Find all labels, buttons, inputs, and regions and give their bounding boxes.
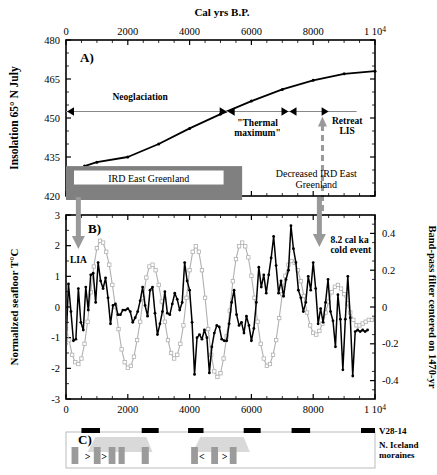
panel-b-y2-tick-label: 0.4: [382, 228, 396, 239]
seafloor-temperature-data-point: [94, 301, 97, 304]
insolation-data-point: [343, 72, 346, 75]
arrow-head: [67, 107, 74, 115]
panel-b-x-tick-label: 6000: [241, 404, 262, 415]
seafloor-temperature-data-point: [317, 322, 320, 325]
moraine-bar: [109, 447, 116, 464]
seafloor-temperature-data-point: [297, 289, 300, 292]
panel-a-y-tick-label: 435: [44, 152, 60, 163]
seafloor-temperature-data-point: [178, 309, 181, 312]
seafloor-temperature-data-point: [99, 280, 102, 283]
bandpass-data-point: [240, 241, 243, 244]
bandpass-data-point: [197, 250, 200, 253]
v28-14-bar: [81, 428, 100, 433]
bandpass-data-point: [169, 351, 172, 354]
panel-b-y2-tick-label: -0.2: [382, 338, 399, 349]
bandpass-data-point: [157, 283, 160, 286]
seafloor-temperature-data-point: [277, 292, 280, 295]
seafloor-temperature-data-point: [215, 324, 218, 327]
seafloor-temperature-data-point: [119, 313, 122, 316]
bandpass-data-point: [154, 269, 157, 272]
seafloor-temperature-data-point: [151, 286, 154, 289]
bandpass-data-point: [132, 355, 135, 358]
bandpass-data-point: [129, 364, 132, 367]
seafloor-temperature-data-point: [346, 275, 349, 278]
seafloor-temperature-data-point: [186, 280, 189, 283]
seafloor-temperature-data-point: [366, 329, 369, 332]
seafloor-temperature-data-point: [257, 266, 260, 269]
panel-b-y2-tick-label: 0.2: [382, 265, 395, 276]
bandpass-data-point: [336, 283, 339, 286]
seafloor-temperature-data-point: [121, 309, 124, 312]
seafloor-temperature-data-point: [341, 368, 344, 371]
seafloor-temperature-data-point: [112, 304, 115, 307]
arrow-head: [322, 107, 329, 115]
moraine-direction-marker: >: [222, 451, 228, 462]
seafloor-temperature-data-point: [70, 310, 73, 313]
panel-c-label: C): [78, 432, 92, 447]
seafloor-temperature-data-point: [114, 303, 117, 306]
bandpass-data-point: [185, 296, 188, 299]
retreat-lis-connector-arrowhead: [318, 117, 327, 127]
insolation-data-point: [188, 127, 191, 130]
seafloor-temperature-data-point: [201, 338, 204, 341]
seafloor-temperature-data-point: [322, 321, 325, 324]
seafloor-temperature-data-point: [230, 301, 233, 304]
panel-b-y-tick-label: -1: [51, 332, 60, 343]
seafloor-temperature-data-point: [159, 322, 162, 325]
cold-event-arrow-head: [313, 234, 326, 247]
seafloor-temperature-data-point: [337, 293, 340, 296]
v28-14-bar: [188, 428, 203, 433]
panel-b-x-tick-label: 1 104: [364, 403, 386, 416]
panel-a-y-tick-label: 420: [44, 191, 60, 202]
moraine-bar: [191, 447, 198, 464]
bandpass-data-point: [135, 338, 138, 341]
seafloor-temperature-data-point: [168, 313, 171, 316]
bandpass-data-point: [247, 256, 250, 259]
seafloor-temperature-data-point: [235, 313, 238, 316]
seafloor-temperature-data-point: [136, 310, 139, 313]
v28-14-bar: [142, 428, 159, 433]
bandpass-data-point: [206, 327, 209, 330]
seafloor-temperature-data-point: [374, 0, 377, 1]
bandpass-data-point: [216, 375, 219, 378]
seafloor-temperature-data-point: [371, 0, 374, 1]
bandpass-data-point: [213, 370, 216, 373]
seafloor-temperature-data-point: [270, 257, 273, 260]
panel-b-label: B): [88, 221, 101, 236]
bandpass-data-point: [123, 361, 126, 364]
panel-c: C)V28-14>><>N. Icelandmoraines: [66, 426, 419, 468]
bandpass-data-point: [262, 357, 265, 360]
bandpass-data-point: [330, 291, 333, 294]
bandpass-data-point: [70, 353, 73, 356]
bandpass-data-point: [256, 320, 259, 323]
panel-b-ylabel-left: Normalized seafloor T°C: [8, 248, 20, 365]
panel-b-y-tick-label: 0: [55, 302, 60, 313]
bandpass-data-point: [299, 280, 302, 283]
seafloor-temperature-data-point: [131, 321, 134, 324]
seafloor-temperature-data-point: [324, 301, 327, 304]
seafloor-temperature-data-point: [369, 0, 372, 1]
seafloor-temperature-data-point: [220, 338, 223, 341]
seafloor-temperature-data-point: [203, 329, 206, 332]
moraine-direction-marker: >: [85, 451, 91, 462]
seafloor-temperature-data-point: [134, 316, 137, 319]
bandpass-data-point: [271, 353, 274, 356]
bandpass-data-point: [194, 245, 197, 248]
insolation-data-point: [126, 156, 129, 159]
seafloor-temperature-data-point: [319, 307, 322, 310]
seafloor-temperature-data-point: [74, 338, 77, 341]
seafloor-temperature-data-point: [287, 269, 290, 272]
panel-b-y-tick-label: 2: [55, 240, 60, 251]
seafloor-temperature-data-point: [349, 316, 352, 319]
moraine-bar: [72, 447, 79, 464]
seafloor-temperature-data-point: [359, 330, 362, 333]
panel-a-y-tick-label: 480: [44, 35, 60, 46]
seafloor-temperature-data-point: [154, 312, 157, 315]
seafloor-temperature-data-point: [228, 322, 231, 325]
seafloor-temperature-data-point: [292, 247, 295, 250]
bandpass-data-point: [104, 250, 107, 253]
bandpass-data-point: [77, 362, 80, 365]
seafloor-temperature-data-point: [163, 290, 166, 293]
bandpass-data-point: [318, 329, 321, 332]
bandpass-data-point: [203, 296, 206, 299]
